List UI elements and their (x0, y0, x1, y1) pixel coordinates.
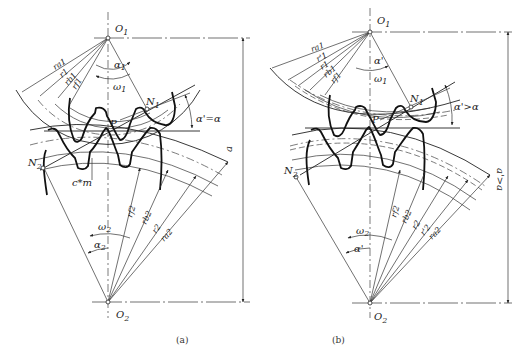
alpha-prime-bottom-label-b: α' (354, 243, 364, 254)
p-label-a: P (109, 118, 117, 129)
radius-rf2-label-b: rf2 (389, 205, 401, 219)
gear2-dedendum-circle-a (40, 163, 212, 196)
o1-label-b: O1 (377, 15, 390, 29)
o2-n2-line-b (296, 177, 370, 303)
line-of-action-a (40, 85, 195, 170)
alpha1-label-a: α1 (114, 59, 126, 72)
line-of-action-b (300, 82, 455, 175)
o2-label-b: O2 (374, 311, 387, 325)
radius-rb2-line-b (370, 172, 425, 303)
figure-b: O1 O2 P N1 N2 α'>α a'>a α' ω1 ω2 α' ra1 … (270, 8, 512, 345)
radius-r2-line-b (370, 176, 448, 303)
angle-label-a: α'=α (196, 113, 221, 124)
pressure-angle-arc-a (185, 95, 192, 128)
angle-label-b: α'>α (454, 101, 479, 112)
gear2-pitch-circle-b (290, 139, 485, 186)
o2-point-b (368, 301, 372, 305)
radius-r2-line-a (108, 176, 196, 302)
o1-n1-line-a (108, 38, 147, 109)
o2-label-a: O2 (116, 309, 129, 323)
figure-a: O1 O2 P N1 N2 α'=α a c*m α1 ω1 ω2 α2 ra1… (16, 12, 250, 345)
center-distance-label-b: a'>a (495, 168, 506, 191)
omega2-label-b: ω2 (356, 225, 369, 238)
p-label-b: P (371, 114, 379, 125)
n1-point-b (409, 105, 413, 109)
o1-point-a (106, 36, 110, 40)
omega1-arc-a (96, 74, 130, 79)
omega1-label-a: ω1 (113, 81, 126, 94)
radius-rf1-line-a (70, 38, 108, 104)
gear1-teeth-a (69, 92, 175, 142)
o2-point-a (106, 300, 110, 304)
o2-n2-line-a (44, 168, 108, 302)
radius-rf2-line-b (370, 170, 400, 303)
n2-label-b: N2 (283, 165, 298, 179)
caption-a: (a) (176, 335, 188, 345)
o1-point-b (368, 30, 372, 34)
alpha-prime-top-label-b: α' (374, 55, 384, 66)
radius-r2-label-a: r2 (150, 223, 162, 235)
omega2-label-a: ω2 (98, 221, 111, 234)
clearance-label-a: c*m (72, 177, 92, 188)
gear2-base-circle-b (292, 154, 476, 200)
o1-label-a: O1 (115, 23, 128, 37)
gear2-dedendum-circle-b (295, 165, 470, 210)
alpha-prime-top-arc-b (356, 66, 388, 70)
pressure-angle-arc-b (445, 85, 452, 125)
radius-rb1-line-a (58, 38, 108, 98)
omega1-label-b: ω1 (374, 73, 387, 86)
radius-rf2-line-a (108, 168, 140, 302)
gear2-teeth-b (307, 127, 425, 190)
center-distance-label-a: a (223, 146, 234, 152)
gear2-base-circle-a (35, 152, 218, 186)
gear-meshing-diagram: O1 O2 P N1 N2 α'=α a c*m α1 ω1 ω2 α2 ra1… (0, 0, 518, 358)
radius-rf2-label-a: rf2 (125, 205, 137, 219)
radius-rb2-label-a: rb2 (140, 209, 154, 226)
n1-point-a (145, 107, 149, 111)
o1-n1-line-b (370, 32, 411, 107)
caption-b: (b) (332, 335, 345, 345)
radius-r-prime2-line-b (370, 180, 468, 303)
